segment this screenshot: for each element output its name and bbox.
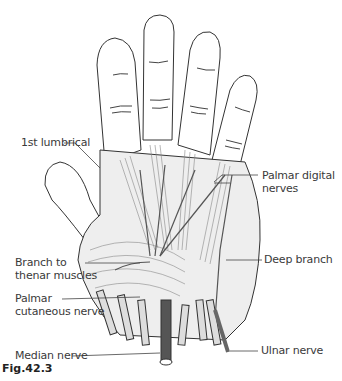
label-branch-to-thenar: Branch to thenar muscles xyxy=(15,256,97,282)
label-palmar-cutaneous: Palmar cutaneous nerve xyxy=(15,292,104,318)
label-deep-branch: Deep branch xyxy=(264,253,333,266)
label-palmar-digital-nerves: Palmar digital nerves xyxy=(262,169,335,195)
label-median-nerve: Median nerve xyxy=(15,349,88,362)
label-1st-lumbrical: 1st lumbrical xyxy=(21,136,90,149)
figure-caption: Fig.42.3 xyxy=(2,362,52,375)
label-ulnar-nerve: Ulnar nerve xyxy=(261,344,323,357)
median-nerve-trunk xyxy=(161,300,171,362)
middle-finger xyxy=(143,15,174,140)
ring-finger xyxy=(178,32,220,155)
little-finger xyxy=(212,75,257,165)
index-finger xyxy=(97,38,141,163)
